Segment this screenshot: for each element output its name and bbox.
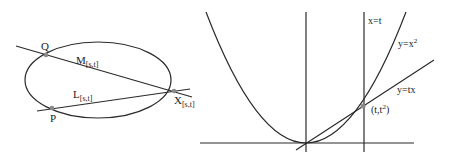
label-point-main: (t,t — [371, 104, 383, 116]
label-q: Q — [41, 40, 49, 52]
label-y-equals-x2-main: y=x — [398, 38, 414, 49]
point-q — [44, 53, 49, 58]
label-p: P — [50, 112, 56, 124]
line-m — [16, 46, 192, 97]
label-y-equals-x2: y=x2 — [398, 37, 418, 49]
label-l-sub: [s,t] — [80, 94, 93, 103]
label-x-sub: [s,t] — [182, 100, 195, 109]
point-p — [50, 106, 55, 111]
parabola-figure: x=t y=x2 y=tx (t,t2) — [200, 12, 434, 152]
label-x: X[s,t] — [174, 94, 195, 109]
label-m: M[s,t] — [76, 54, 99, 69]
line-l — [37, 89, 190, 111]
label-x-equals-t: x=t — [368, 15, 382, 26]
label-y-equals-tx: y=tx — [397, 84, 415, 95]
label-l: L[s,t] — [73, 88, 93, 103]
label-y-equals-x2-exp: 2 — [414, 37, 418, 45]
point-t-t2 — [361, 104, 366, 109]
diagram-canvas: Q P M[s,t] L[s,t] X[s,t] x=t y=x2 y=tx (… — [0, 0, 452, 162]
label-point-t-t2: (t,t2) — [371, 103, 389, 116]
label-x-main: X — [174, 94, 182, 106]
label-m-sub: [s,t] — [86, 60, 99, 69]
ellipse-figure: Q P M[s,t] L[s,t] X[s,t] — [16, 40, 195, 124]
label-point-close: ) — [386, 104, 389, 116]
label-m-main: M — [76, 54, 86, 66]
point-x — [172, 89, 177, 94]
